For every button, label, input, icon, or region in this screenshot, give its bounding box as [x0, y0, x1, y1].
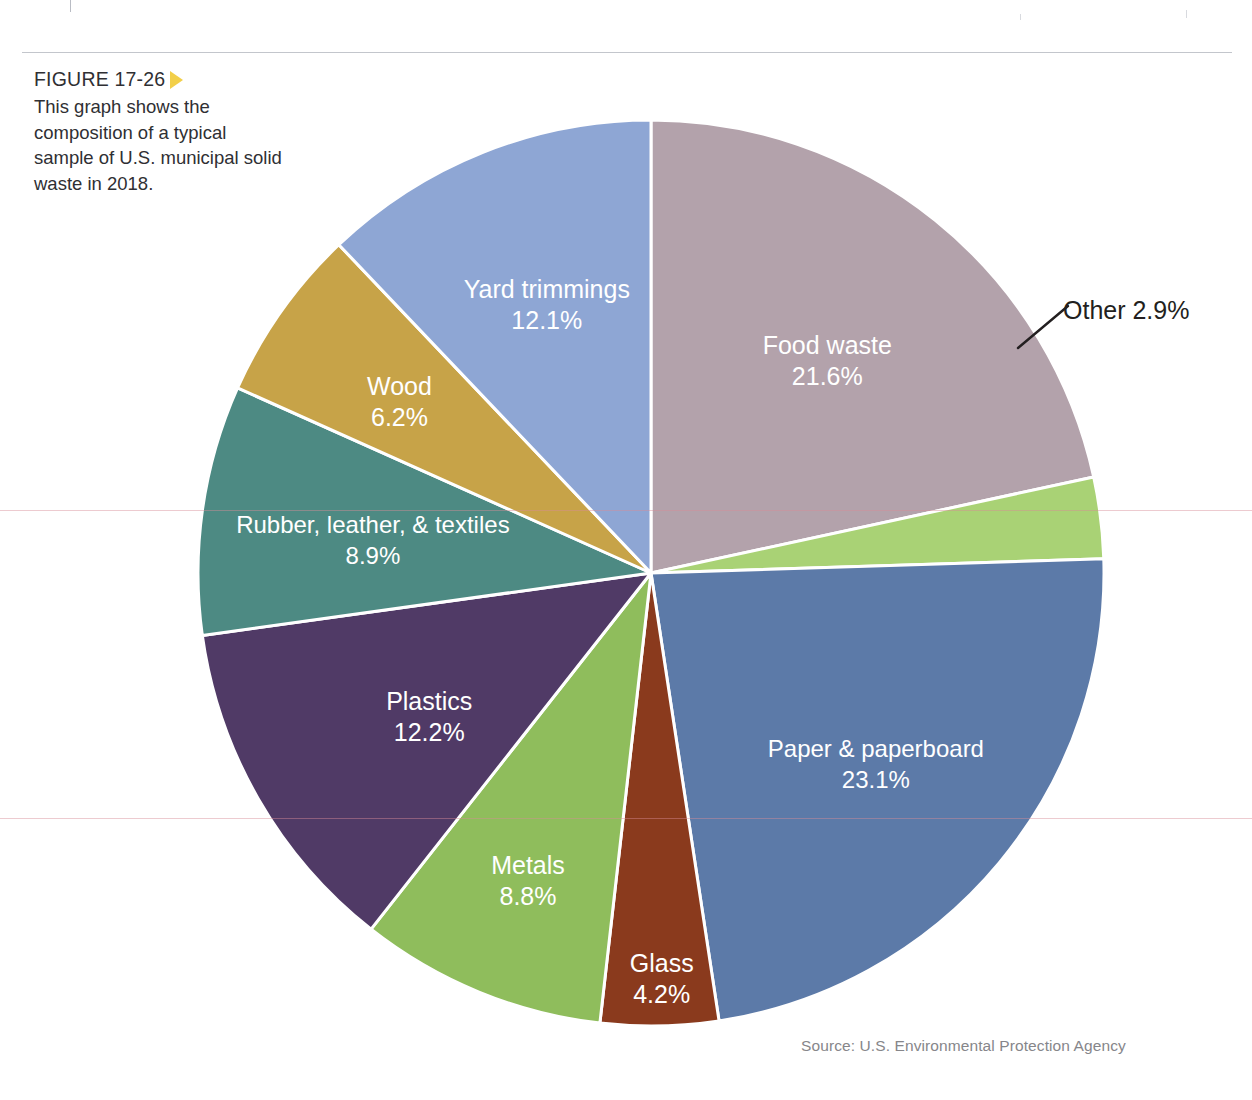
pie-slice-value: 4.2%: [633, 980, 690, 1008]
pie-slice-value: 23.1%: [842, 766, 910, 793]
pie-chart-svg: Food waste21.6%Paper & paperboard23.1%Gl…: [196, 118, 1106, 1028]
artifact-tick-right: [1186, 10, 1187, 18]
pie-slice-label: Yard trimmings: [464, 275, 630, 303]
pie-slice-label: Wood: [367, 372, 432, 400]
leader-line-segment: [1018, 306, 1068, 348]
source-attribution: Source: U.S. Environmental Protection Ag…: [801, 1037, 1126, 1055]
figure-number-line: FIGURE 17-26: [34, 68, 284, 91]
pie-slice-label: Food waste: [763, 331, 892, 359]
pie-slice-value: 6.2%: [371, 403, 428, 431]
pie-chart: Food waste21.6%Paper & paperboard23.1%Gl…: [196, 118, 1106, 1028]
pie-slice-label: Rubber, leather, & textiles: [236, 511, 510, 538]
pie-slice-value: 12.2%: [394, 718, 465, 746]
header-rule: [22, 52, 1232, 53]
pie-slice-value: 8.8%: [500, 882, 557, 910]
artifact-tick-mid: [1020, 14, 1021, 20]
pie-slice-label: Plastics: [386, 687, 472, 715]
pie-slice-group: [198, 120, 1104, 1026]
figure-number: FIGURE 17-26: [34, 68, 165, 91]
pie-slice-label: Paper & paperboard: [768, 735, 984, 762]
other-slice-callout-label: Other 2.9%: [1063, 296, 1189, 325]
pie-slice-value: 21.6%: [792, 362, 863, 390]
triangle-right-icon: [170, 71, 183, 89]
pie-slice-label: Metals: [491, 851, 565, 879]
pie-slice-label: Glass: [630, 949, 694, 977]
pie-slice-value: 12.1%: [511, 306, 582, 334]
pie-slice-value: 8.9%: [346, 542, 401, 569]
artifact-tick-left: [70, 0, 71, 12]
